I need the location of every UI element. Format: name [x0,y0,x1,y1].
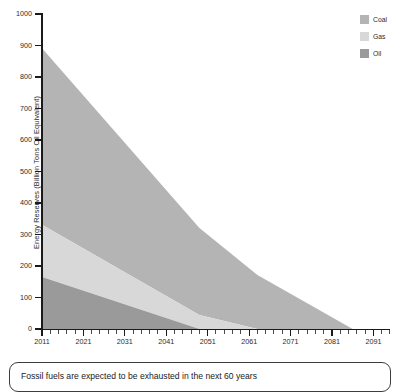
x-tick-label: 2011 [22,338,62,345]
legend-label: Gas [373,33,385,40]
y-tick-label: 300 [0,231,32,238]
x-tick-mark-minor [182,330,183,334]
stacked-area-series-group [42,14,390,329]
x-tick-label: 2031 [105,338,145,345]
x-tick-mark-minor [315,330,316,334]
x-tick-mark-major [290,330,291,336]
x-tick-mark-minor [174,330,175,334]
legend-swatch-gas [360,32,369,41]
x-tick-mark-major [249,330,250,336]
x-tick-mark-minor [257,330,258,334]
y-tick-mark [35,171,41,173]
y-tick-mark [35,265,41,267]
x-tick-mark-minor [99,330,100,334]
y-tick-label: 500 [0,168,32,175]
x-tick-label: 2081 [312,338,352,345]
x-tick-mark-minor [240,330,241,334]
x-tick-mark-minor [365,330,366,334]
x-tick-label: 2051 [188,338,228,345]
legend-label: Oil [373,50,381,57]
x-tick-label: 2091 [353,338,393,345]
x-tick-mark-minor [282,330,283,334]
x-tick-mark-minor [215,330,216,334]
y-axis-spine [41,13,43,330]
x-tick-mark-major [166,330,167,336]
y-tick-label: 200 [0,262,32,269]
y-tick-mark [35,108,41,110]
x-tick-mark-minor [232,330,233,334]
x-tick-mark-major [83,330,84,336]
x-tick-mark-minor [298,330,299,334]
y-axis-title: Energy Reserves (Billion Tons Oil Equiva… [32,43,41,303]
x-tick-mark-minor [273,330,274,334]
y-tick-mark [35,45,41,47]
plot-area [42,14,390,329]
y-tick-mark [35,202,41,204]
legend-label: Coal [373,16,387,23]
x-tick-mark-major [41,330,42,336]
x-tick-mark-minor [149,330,150,334]
y-tick-mark [35,76,41,78]
y-tick-label: 800 [0,73,32,80]
x-tick-mark-minor [191,330,192,334]
legend-item-gas[interactable]: Gas [360,28,400,44]
x-tick-mark-major [373,330,374,336]
x-tick-mark-minor [323,330,324,334]
legend-swatch-coal [360,15,369,24]
x-tick-mark-minor [199,330,200,334]
x-tick-label: 2061 [229,338,269,345]
x-tick-label: 2021 [63,338,103,345]
x-tick-mark-major [207,330,208,336]
y-tick-label: 0 [0,325,32,332]
chart-legend: CoalGasOil [360,11,400,62]
x-tick-mark-minor [75,330,76,334]
x-tick-mark-minor [116,330,117,334]
x-tick-mark-minor [389,330,390,334]
y-tick-mark [35,328,41,330]
y-tick-label: 1000 [0,10,32,17]
x-tick-mark-minor [108,330,109,334]
y-tick-label: 100 [0,294,32,301]
y-tick-mark [35,297,41,299]
y-tick-label: 900 [0,42,32,49]
y-tick-mark [35,139,41,141]
x-tick-label: 2071 [271,338,311,345]
x-tick-mark-major [331,330,332,336]
legend-item-oil[interactable]: Oil [360,45,400,61]
x-tick-label: 2041 [146,338,186,345]
x-tick-mark-major [124,330,125,336]
legend-swatch-oil [360,49,369,58]
x-tick-mark-minor [356,330,357,334]
x-tick-mark-minor [340,330,341,334]
x-tick-mark-minor [50,330,51,334]
x-tick-mark-minor [141,330,142,334]
x-tick-mark-minor [157,330,158,334]
x-tick-mark-minor [133,330,134,334]
y-tick-label: 600 [0,136,32,143]
x-tick-mark-minor [224,330,225,334]
legend-item-coal[interactable]: Coal [360,11,400,27]
caption-box: Fossil fuels are expected to be exhauste… [9,362,391,392]
y-tick-mark [35,13,41,15]
caption-text: Fossil fuels are expected to be exhauste… [21,371,381,382]
x-tick-mark-minor [265,330,266,334]
x-tick-mark-minor [381,330,382,334]
x-tick-mark-minor [91,330,92,334]
x-tick-mark-minor [348,330,349,334]
y-tick-label: 400 [0,199,32,206]
x-tick-mark-minor [66,330,67,334]
x-tick-mark-minor [307,330,308,334]
y-tick-label: 700 [0,105,32,112]
x-tick-mark-minor [58,330,59,334]
y-tick-mark [35,234,41,236]
